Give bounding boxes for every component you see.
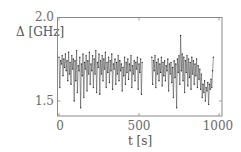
data-point [138, 63, 139, 64]
data-point [199, 68, 200, 69]
data-point [91, 70, 92, 71]
data-point [121, 63, 122, 64]
data-point [132, 65, 133, 66]
data-point [82, 53, 83, 54]
data-point [111, 53, 112, 54]
data-point [175, 63, 176, 64]
data-point [173, 97, 174, 98]
data-point [152, 84, 153, 85]
data-point [198, 65, 199, 66]
data-point [82, 75, 83, 76]
data-point [101, 73, 102, 74]
data-point [213, 57, 214, 58]
data-point [80, 107, 81, 108]
data-point [190, 89, 191, 90]
data-point [151, 57, 152, 58]
data-point [114, 58, 115, 59]
data-point [180, 35, 181, 36]
data-point [65, 53, 66, 54]
data-point [184, 92, 185, 93]
data-point [166, 70, 167, 71]
data-point [206, 87, 207, 88]
data-point [68, 52, 69, 53]
data-point [94, 73, 95, 74]
data-point [171, 82, 172, 83]
data-point [95, 50, 96, 51]
data-point [99, 94, 100, 95]
data-point [86, 90, 87, 91]
data-point [194, 84, 195, 85]
y-tick-label-2.0: 2.0 [35, 10, 54, 24]
data-point [70, 84, 71, 85]
data-point [198, 79, 199, 80]
data-point [128, 79, 129, 80]
data-point [64, 67, 65, 68]
data-point [174, 77, 175, 78]
data-point [114, 68, 115, 69]
data-point [87, 60, 88, 61]
data-point [194, 63, 195, 64]
data-point [88, 73, 89, 74]
data-point [70, 62, 71, 63]
data-point [162, 62, 163, 63]
axis-ticks [58, 18, 223, 117]
data-point [108, 57, 109, 58]
data-point [183, 57, 184, 58]
data-point [104, 68, 105, 69]
data-point [105, 52, 106, 53]
data-point [158, 58, 159, 59]
data-point [63, 58, 64, 59]
data-point [93, 87, 94, 88]
y-axis-label: Δ [GHz] [16, 25, 64, 39]
plot-frame [58, 18, 223, 117]
data-point [122, 90, 123, 91]
data-point [207, 82, 208, 83]
data-point [62, 55, 63, 56]
data-point [118, 55, 119, 56]
data-point [185, 60, 186, 61]
data-point [102, 80, 103, 81]
series-line [152, 36, 214, 108]
chart: Δ [GHz] 2.0 1.5 0 500 1000 t [s] [0, 0, 241, 152]
data-point [78, 65, 79, 66]
data-point [79, 57, 80, 58]
data-point [110, 60, 111, 61]
data-point [123, 75, 124, 76]
data-point [204, 80, 205, 81]
data-point [94, 58, 95, 59]
data-point [212, 70, 213, 71]
data-point [116, 62, 117, 63]
data-point [129, 63, 130, 64]
data-point [62, 75, 63, 76]
data-point [98, 53, 99, 54]
data-point [117, 73, 118, 74]
data-point [90, 63, 91, 64]
data-point [186, 55, 187, 56]
data-point [61, 63, 62, 64]
data-point [84, 62, 85, 63]
data-point [188, 58, 189, 59]
data-point [92, 55, 93, 56]
data-point [167, 58, 168, 59]
data-point [136, 68, 137, 69]
data-point [107, 72, 108, 73]
data-point [119, 60, 120, 61]
data-point [139, 72, 140, 73]
data-point [133, 73, 134, 74]
data-point [130, 55, 131, 56]
data-point [202, 97, 203, 98]
data-point [205, 100, 206, 101]
data-point [161, 57, 162, 58]
data-point [158, 80, 159, 81]
data-point [202, 84, 203, 85]
data-point [189, 77, 190, 78]
data-point [169, 63, 170, 64]
data-point [178, 72, 179, 73]
data-point [98, 67, 99, 68]
x-tick-label-0: 0 [56, 119, 64, 133]
data-point [160, 72, 161, 73]
data-point [126, 72, 127, 73]
data-point [187, 85, 188, 86]
data-point [112, 89, 113, 90]
data-point [96, 92, 97, 93]
